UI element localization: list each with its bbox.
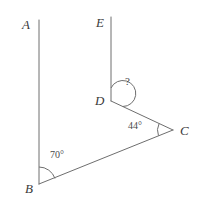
angle-measure-b: 70° bbox=[50, 150, 64, 160]
vertex-label-c: C bbox=[180, 124, 189, 137]
geometry-figure: A B C D E 70° 44° ? bbox=[0, 0, 206, 208]
angle-arc-at-B bbox=[39, 167, 55, 178]
angle-measure-c: 44° bbox=[128, 121, 142, 131]
segment-DC bbox=[111, 101, 173, 130]
vertex-label-e: E bbox=[96, 16, 104, 29]
vertex-label-b: B bbox=[25, 182, 33, 195]
angle-arc-at-C bbox=[157, 124, 159, 136]
angle-measure-d-unknown: ? bbox=[125, 76, 130, 87]
vertex-label-a: A bbox=[22, 18, 30, 31]
vertex-label-d: D bbox=[95, 94, 104, 107]
